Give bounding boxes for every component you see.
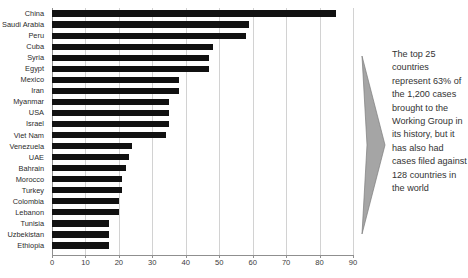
bar — [52, 77, 179, 83]
category-label: Egypt — [0, 63, 48, 74]
tick-label: 70 — [282, 258, 290, 267]
category-label: Syria — [0, 52, 48, 63]
tick-label: 80 — [315, 258, 323, 267]
category-label: UAE — [0, 152, 48, 163]
bar — [52, 220, 109, 226]
bar — [52, 44, 213, 50]
tick-label: 0 — [50, 258, 54, 267]
bar-row — [52, 74, 353, 85]
bar — [52, 187, 122, 193]
bar-row — [52, 19, 353, 30]
category-label: Peru — [0, 30, 48, 41]
bar-row — [52, 141, 353, 152]
bar — [52, 121, 169, 127]
bar-row — [52, 218, 353, 229]
bar-row — [52, 30, 353, 41]
bar — [52, 66, 209, 72]
category-label: Venezuela — [0, 141, 48, 152]
bar-row — [52, 107, 353, 118]
bar — [52, 154, 129, 160]
bar-row — [52, 229, 353, 240]
category-label: Bahrain — [0, 163, 48, 174]
bar-row — [52, 96, 353, 107]
bar-row — [52, 85, 353, 96]
tick-label: 20 — [115, 258, 123, 267]
bar — [52, 165, 126, 171]
bar-row — [52, 52, 353, 63]
category-label: Mexico — [0, 74, 48, 85]
category-label: Cuba — [0, 41, 48, 52]
bar-row — [52, 207, 353, 218]
bar — [52, 110, 169, 116]
category-label: Viet Nam — [0, 130, 48, 141]
bar — [52, 21, 249, 27]
category-label: Lebanon — [0, 207, 48, 218]
bar-row — [52, 63, 353, 74]
bar-chart: ChinaSaudi ArabiaPeruCubaSyriaEgyptMexic… — [0, 0, 360, 278]
tick-label: 30 — [148, 258, 156, 267]
bar-row — [52, 152, 353, 163]
right-arrow-triangle-icon — [360, 56, 386, 234]
tick-label: 60 — [248, 258, 256, 267]
category-label: Turkey — [0, 185, 48, 196]
bar-row — [52, 185, 353, 196]
category-label: Saudi Arabia — [0, 19, 48, 30]
bar — [52, 132, 166, 138]
bar-row — [52, 240, 353, 251]
category-label: USA — [0, 107, 48, 118]
tick-label: 10 — [81, 258, 89, 267]
bar-row — [52, 41, 353, 52]
category-label: Myanmar — [0, 96, 48, 107]
category-label: Iran — [0, 85, 48, 96]
category-label: Tunisia — [0, 218, 48, 229]
bar-row — [52, 174, 353, 185]
bar-row — [52, 130, 353, 141]
bar — [52, 55, 209, 61]
bar — [52, 88, 179, 94]
gridline — [353, 8, 354, 255]
tick-label: 50 — [215, 258, 223, 267]
bar — [52, 231, 109, 237]
bar — [52, 10, 336, 16]
callout-text: The top 25 countries represent 63% of th… — [392, 48, 468, 195]
category-axis-labels: ChinaSaudi ArabiaPeruCubaSyriaEgyptMexic… — [0, 8, 48, 251]
bar — [52, 33, 246, 39]
bar-series — [52, 8, 353, 251]
bar — [52, 99, 169, 105]
tick-label: 90 — [349, 258, 357, 267]
category-label: Ethiopia — [0, 240, 48, 251]
chart-screenshot: ChinaSaudi ArabiaPeruCubaSyriaEgyptMexic… — [0, 0, 468, 278]
plot-area — [52, 8, 353, 255]
callout-textbox: The top 25 countries represent 63% of th… — [392, 48, 468, 195]
bar — [52, 209, 119, 215]
category-label: Uzbekistan — [0, 229, 48, 240]
bar — [52, 143, 132, 149]
bar — [52, 242, 109, 248]
x-axis-ticks: 0102030405060708090 — [52, 256, 353, 272]
bar-row — [52, 196, 353, 207]
bar-row — [52, 163, 353, 174]
tick-label: 40 — [182, 258, 190, 267]
category-label: Israel — [0, 118, 48, 129]
category-label: Morocco — [0, 174, 48, 185]
bar — [52, 198, 119, 204]
bar-row — [52, 8, 353, 19]
bar — [52, 176, 122, 182]
category-label: Colombia — [0, 196, 48, 207]
category-label: China — [0, 8, 48, 19]
bar-row — [52, 118, 353, 129]
